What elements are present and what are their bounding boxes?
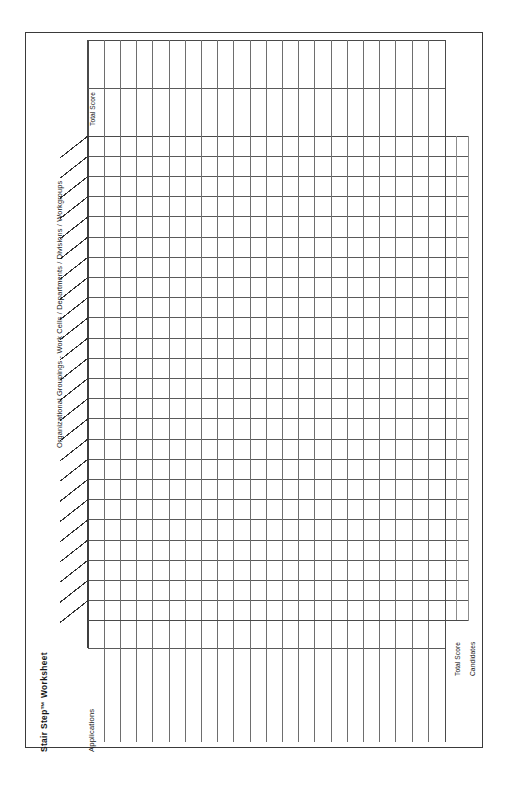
total-score-top-label: Total Score	[90, 92, 97, 126]
worksheet-page: Stair Step™ Worksheet Applications Organ…	[0, 0, 510, 786]
total-score-bottom-label: Total Score	[455, 642, 462, 676]
applications-axis-label: Applications	[88, 709, 96, 752]
page-title: Stair Step™ Worksheet	[40, 652, 48, 752]
page-border	[25, 32, 483, 748]
organizational-groupings-axis-label: Organizational Groupings - Work Cells / …	[56, 181, 63, 448]
candidates-label: Candidates	[470, 642, 477, 676]
